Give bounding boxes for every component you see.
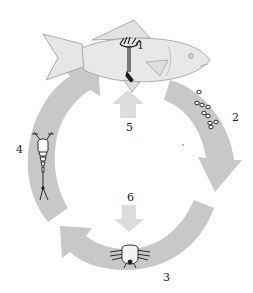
fish-eye-icon (189, 54, 194, 59)
label-stage-3: 3 (163, 272, 170, 283)
cycle-arrow-right (164, 80, 242, 192)
arrow-to-larva (114, 205, 144, 232)
label-stage-4: 4 (16, 144, 23, 155)
speck (182, 144, 184, 146)
infection-arrow (112, 90, 144, 118)
label-stage-5: 5 (126, 122, 133, 133)
life-cycle-diagram: 1 2 3 4 5 6 (0, 0, 253, 293)
label-stage-2: 2 (232, 112, 239, 123)
label-stage-6: 6 (127, 192, 134, 203)
label-stage-1: 1 (137, 40, 144, 51)
